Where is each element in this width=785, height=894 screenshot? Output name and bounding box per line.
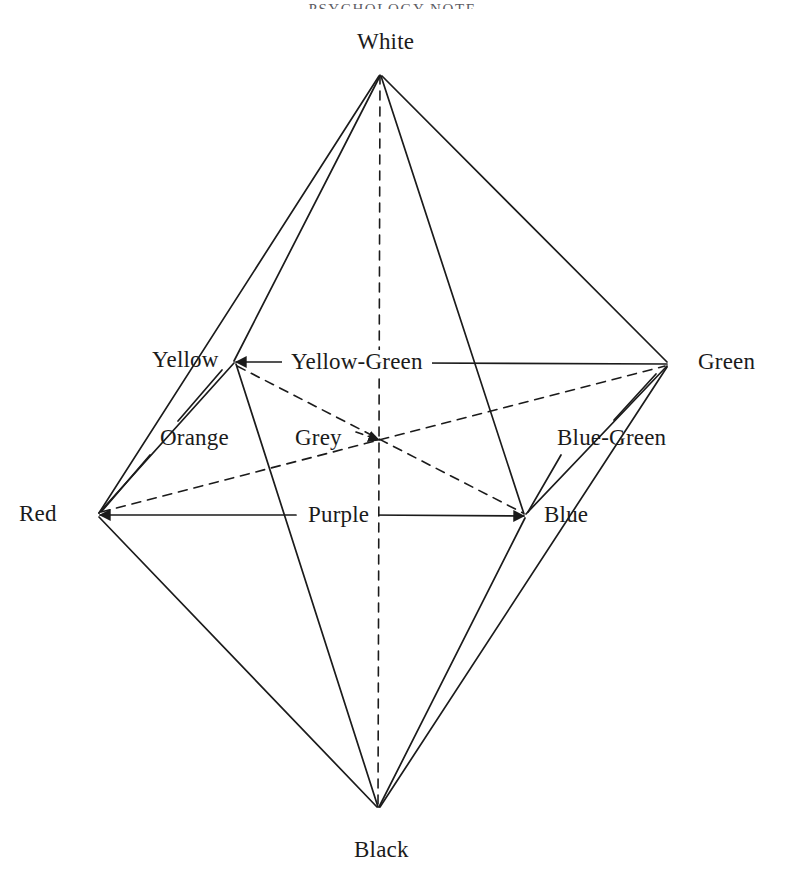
vertex-label-green: Green bbox=[694, 350, 759, 373]
edge-yellow-green-right bbox=[420, 363, 667, 364]
edge-white-black bbox=[378, 75, 380, 808]
vertex-label-blue: Blue bbox=[540, 503, 592, 526]
vertex-label-yellow: Yellow bbox=[148, 348, 223, 371]
edge-label-blue-green: Blue-Green bbox=[553, 426, 670, 449]
vertex-label-black: Black bbox=[350, 838, 413, 861]
edge-purple-right bbox=[366, 515, 524, 516]
leader-bluegreen-to-green bbox=[614, 374, 656, 420]
vertex-label-red: Red bbox=[15, 502, 61, 525]
edge-label-purple: Purple bbox=[299, 503, 378, 526]
leader-orange-to-yellow bbox=[178, 370, 222, 421]
edge-label-yellow-green: Yellow-Green bbox=[282, 350, 432, 373]
edge-white-yellow bbox=[234, 76, 380, 361]
leader-orange-to-red bbox=[102, 455, 150, 511]
edge-blue-black bbox=[379, 518, 525, 807]
edge-white-blue bbox=[381, 76, 524, 514]
center-label-grey: Grey bbox=[291, 426, 346, 449]
vertex-label-white: White bbox=[353, 30, 418, 53]
edge-label-orange: Orange bbox=[156, 426, 233, 449]
edge-white-green bbox=[382, 76, 667, 362]
edge-red-black bbox=[99, 517, 377, 807]
color-octahedron-figure: PSYCHOLOGY NOTE bbox=[0, 0, 785, 894]
